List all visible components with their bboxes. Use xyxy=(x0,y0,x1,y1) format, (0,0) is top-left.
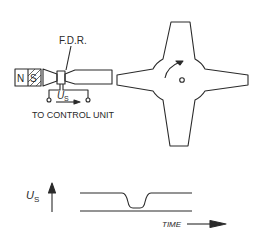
flux-guide xyxy=(43,46,112,86)
rotor-hub-icon xyxy=(180,78,185,83)
fdr-sensor xyxy=(57,71,65,84)
fdr-leader-line xyxy=(66,46,71,70)
rotor xyxy=(117,22,248,146)
rotation-arrow-icon xyxy=(165,62,180,78)
graph-x-label: TIME xyxy=(162,220,182,229)
to-control-unit-label: TO CONTROL UNIT xyxy=(32,110,115,120)
magnet-north-label: N xyxy=(17,73,24,84)
graph-y-label: U xyxy=(26,189,34,201)
fdr-label: F.D.R. xyxy=(59,35,87,46)
magnet-south-label: S xyxy=(30,73,37,84)
signal-graph xyxy=(49,183,227,228)
diagram-canvas: F.D.R. N S U S TO CONTROL UNIT U S TIME xyxy=(0,0,261,245)
graph-y-subscript: S xyxy=(34,195,39,204)
signal-voltage-subscript: S xyxy=(64,95,69,102)
signal-trace xyxy=(80,193,192,208)
